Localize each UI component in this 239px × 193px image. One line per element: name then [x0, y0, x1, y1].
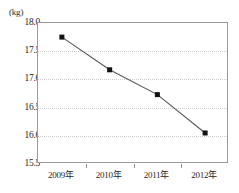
series-line	[62, 37, 205, 133]
x-axis-tick-label: 2011年	[144, 168, 169, 181]
x-axis-tick-mark	[181, 164, 182, 168]
plot-area	[37, 22, 228, 163]
x-axis-tick-label: 2010年	[96, 168, 122, 181]
y-axis-unit-label: (kg)	[9, 7, 23, 17]
data-point-marker	[59, 35, 64, 40]
line-chart: (kg) 18.017.517.016.516.015.5 2009年2010年…	[0, 0, 239, 193]
x-axis-tick-label: 2012年	[191, 168, 217, 181]
data-point-marker	[203, 130, 208, 135]
x-axis-tick-label: 2009年	[48, 168, 74, 181]
data-series	[38, 23, 229, 164]
data-point-marker	[107, 67, 112, 72]
x-axis-tick-mark	[134, 164, 135, 168]
data-point-marker	[155, 92, 160, 97]
x-axis-tick-mark	[86, 164, 87, 168]
